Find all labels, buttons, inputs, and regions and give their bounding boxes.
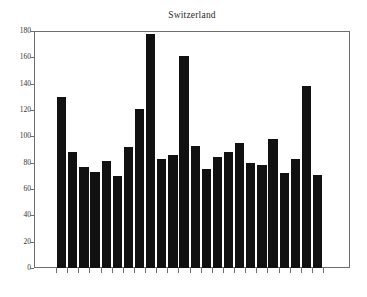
x-tick-mark xyxy=(89,268,90,273)
x-tick-mark xyxy=(301,268,302,273)
bar xyxy=(168,155,177,268)
bar xyxy=(179,56,188,268)
bars-layer xyxy=(34,31,350,268)
chart-title: Switzerland xyxy=(34,10,350,20)
x-tick-mark xyxy=(112,268,113,273)
x-tick-mark xyxy=(312,268,313,273)
chart-figure: Switzerland 020406080100120140160180 xyxy=(0,0,367,297)
x-tick-mark xyxy=(279,268,280,273)
bar xyxy=(202,169,211,268)
bar xyxy=(113,176,122,268)
bar xyxy=(191,146,200,268)
bar xyxy=(68,152,77,268)
x-tick-mark xyxy=(67,268,68,273)
x-tick-mark xyxy=(167,268,168,273)
x-tick-mark xyxy=(245,268,246,273)
bar xyxy=(302,86,311,268)
x-tick-mark xyxy=(290,268,291,273)
bar xyxy=(213,157,222,268)
x-tick-mark xyxy=(56,268,57,273)
x-tick-mark xyxy=(178,268,179,273)
x-tick-mark xyxy=(212,268,213,273)
x-axis-ticks xyxy=(34,268,350,275)
plot-area xyxy=(34,31,350,268)
x-tick-mark xyxy=(123,268,124,273)
x-tick-mark xyxy=(223,268,224,273)
bar xyxy=(102,161,111,268)
x-tick-mark xyxy=(267,268,268,273)
bar xyxy=(246,163,255,268)
x-tick-mark xyxy=(145,268,146,273)
bar xyxy=(280,173,289,268)
bar xyxy=(313,175,322,268)
bar xyxy=(257,165,266,268)
x-tick-mark xyxy=(323,268,324,273)
bar xyxy=(157,159,166,268)
x-tick-mark xyxy=(234,268,235,273)
bar xyxy=(224,152,233,268)
bar xyxy=(57,97,66,268)
x-tick-mark xyxy=(78,268,79,273)
x-tick-mark xyxy=(190,268,191,273)
x-tick-mark xyxy=(156,268,157,273)
bar xyxy=(146,34,155,268)
bar xyxy=(268,139,277,268)
bar xyxy=(90,172,99,268)
x-tick-mark xyxy=(201,268,202,273)
x-tick-mark xyxy=(134,268,135,273)
bar xyxy=(235,143,244,268)
x-tick-mark xyxy=(101,268,102,273)
x-tick-mark xyxy=(256,268,257,273)
bar xyxy=(124,147,133,268)
bar xyxy=(135,109,144,268)
bar xyxy=(79,167,88,268)
bar xyxy=(291,159,300,268)
